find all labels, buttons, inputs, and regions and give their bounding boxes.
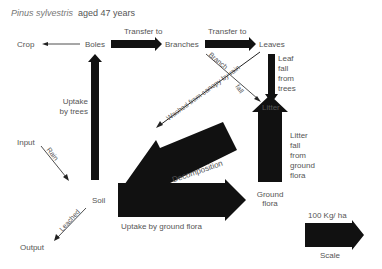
node-input: Input [17, 138, 35, 147]
node-crop: Crop [17, 40, 34, 49]
litter-fall-ground-flora-label: Litterfallfromgroundflora [290, 131, 315, 181]
scale-value: 100 Kg/ ha [308, 211, 347, 220]
leaf-fall-arrow [265, 54, 278, 103]
ground-flora-line-1: Ground [257, 190, 284, 199]
transfer-to-leaves-arrow [205, 37, 256, 51]
node-leaves: Leaves [259, 40, 285, 49]
node-soil: Soil [92, 196, 105, 205]
leaf-fall-label: Leaffallfromtrees [278, 54, 296, 94]
crop-arrow [42, 42, 80, 46]
node-ground-flora: Ground flora [255, 190, 285, 208]
node-branches: Branches [165, 40, 199, 49]
uptake-by-trees-label: Uptakeby trees [58, 97, 88, 117]
transfer-to-branches-label: Transfer to [124, 27, 162, 36]
node-litter: Litter [262, 103, 280, 112]
scale-label: Scale [320, 251, 340, 260]
ground-flora-line-2: flora [262, 199, 278, 208]
node-boles: Boles [85, 40, 105, 49]
uptake-by-ground-flora-label: Uptake by ground flora [121, 222, 202, 231]
uptake-by-ground-flora-arrow [118, 179, 246, 221]
scale-arrow [305, 220, 364, 250]
transfer-to-branches-arrow [111, 37, 162, 51]
transfer-to-leaves-label: Transfer to [208, 27, 246, 36]
uptake-by-trees-arrow [88, 54, 102, 180]
node-output: Output [20, 243, 44, 252]
